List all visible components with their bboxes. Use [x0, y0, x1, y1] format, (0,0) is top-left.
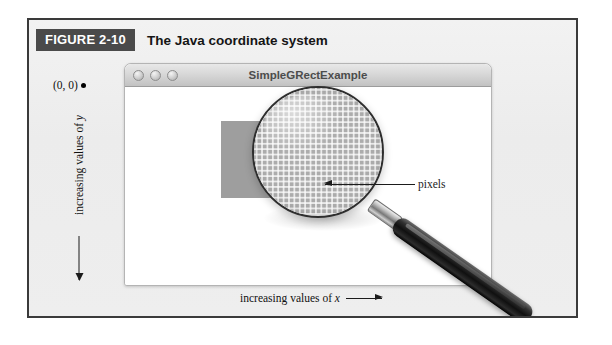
origin-dot-icon [81, 83, 86, 88]
y-axis-label-text: increasing values of [73, 120, 85, 215]
x-axis-arrow-icon [346, 298, 382, 299]
x-axis-label: increasing values of x [240, 292, 340, 304]
origin-coordinate-label: (0, 0) [53, 79, 78, 91]
x-axis-annotation: increasing values of x [240, 292, 382, 304]
window-titlebar[interactable]: SimpleGRectExample [125, 64, 491, 87]
figure-caption: FIGURE 2-10 The Java coordinate system [36, 28, 328, 52]
y-axis-arrow-icon [79, 236, 80, 280]
y-axis-variable: y [73, 115, 85, 120]
pixels-callout: pixels [325, 178, 445, 190]
application-window[interactable]: SimpleGRectExample [124, 63, 492, 286]
figure-number-tag: FIGURE 2-10 [36, 29, 135, 51]
minimize-button[interactable] [150, 70, 161, 81]
y-axis-label: increasing values of y [73, 115, 85, 215]
figure-frame: FIGURE 2-10 The Java coordinate system (… [27, 18, 578, 318]
zoom-button[interactable] [167, 70, 178, 81]
figure-page: FIGURE 2-10 The Java coordinate system (… [0, 0, 612, 345]
close-button[interactable] [133, 70, 144, 81]
x-axis-label-text: increasing values of [240, 292, 335, 304]
x-axis-variable: x [335, 292, 340, 304]
pixels-callout-label: pixels [418, 178, 445, 190]
origin-coordinate-marker: (0, 0) [53, 79, 86, 91]
window-title: SimpleGRectExample [125, 69, 491, 81]
y-axis-annotation: increasing values of y [70, 105, 88, 280]
figure-title: The Java coordinate system [147, 33, 328, 48]
pixels-arrow-icon [325, 184, 415, 185]
